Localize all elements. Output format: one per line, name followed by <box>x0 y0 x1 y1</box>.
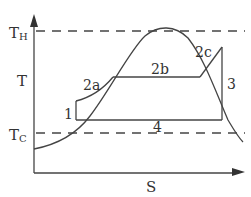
label-process-2a: 2a <box>83 77 100 93</box>
axes <box>30 14 245 176</box>
y-axis-arrow-icon <box>30 14 38 27</box>
th-label: TH <box>9 24 28 42</box>
x-axis-arrow-icon <box>232 168 245 176</box>
label-process-2c: 2c <box>195 44 212 60</box>
label-process-1: 1 <box>64 106 73 122</box>
x-axis-label: S <box>146 178 156 196</box>
y-axis-label: T <box>17 72 27 90</box>
ts-diagram: TH TC T S 1 2a 2b 2c 3 4 <box>0 0 251 197</box>
label-process-3: 3 <box>227 76 236 92</box>
tc-label: TC <box>9 126 27 144</box>
label-process-2b: 2b <box>151 61 169 77</box>
label-process-4: 4 <box>153 119 162 135</box>
